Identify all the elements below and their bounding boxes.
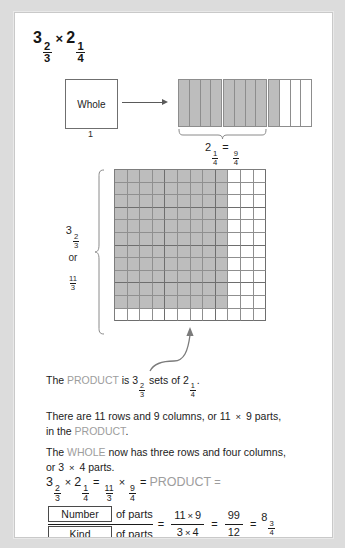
grid-cell — [115, 233, 128, 246]
grid-cell — [165, 246, 178, 259]
grid-cell — [203, 296, 216, 309]
grid-cell — [191, 195, 204, 208]
eq-equals-1: = — [90, 476, 102, 488]
grid-cell — [165, 220, 178, 233]
term-product-3: PRODUCT — [149, 475, 211, 489]
grid-cell — [115, 296, 128, 309]
grid-cell — [178, 271, 191, 284]
grid-cell — [140, 258, 153, 271]
strip-1 — [178, 79, 222, 127]
grid-cell — [165, 233, 178, 246]
grid-cell — [178, 208, 191, 221]
grid-cell — [228, 246, 241, 259]
whole-box: Whole — [65, 79, 118, 129]
grid-cell — [216, 208, 229, 221]
grid-cell — [254, 195, 267, 208]
grid-cell — [165, 283, 178, 296]
eq-equals-3: = — [211, 476, 223, 488]
grid-cell — [241, 170, 254, 183]
title-a-numerator: 2 — [43, 41, 51, 53]
strip-3 — [268, 79, 312, 127]
grid-cell — [165, 183, 178, 196]
nk-equals-3: = — [245, 518, 261, 530]
p1-frac1-den: 3 — [139, 390, 145, 399]
grid-cell — [203, 258, 216, 271]
grid-cell — [153, 208, 166, 221]
nk-final-num: 3 — [268, 520, 274, 528]
grid-cell — [153, 283, 166, 296]
strip-caption-improper-den: 4 — [233, 158, 239, 167]
grid-cell — [241, 258, 254, 271]
grid-cell — [140, 283, 153, 296]
whole-box-value: 1 — [65, 129, 116, 139]
grid-cell — [128, 258, 141, 271]
grid-cell — [241, 271, 254, 284]
grid-cell — [254, 233, 267, 246]
multiply-icon-p3: × — [67, 462, 77, 473]
grid-cell — [165, 309, 178, 322]
term-whole: WHOLE — [67, 446, 106, 458]
grid-cell — [165, 208, 178, 221]
grid-cell — [128, 309, 141, 322]
grid-cell — [191, 170, 204, 183]
multiply-icon-eq1: × — [62, 476, 74, 488]
grid-cell — [140, 271, 153, 284]
number-kind-fraction: Number of parts Kind of parts — [48, 505, 153, 538]
multiply-icon-nk-num: × — [186, 510, 196, 521]
grid-cell — [178, 233, 191, 246]
grid-cell — [228, 296, 241, 309]
curved-arrow-icon — [148, 321, 208, 373]
strip-caption-equals: = — [219, 141, 231, 153]
row-label-num: 2 — [73, 233, 79, 241]
grid-cell — [115, 208, 128, 221]
grid-cell — [128, 271, 141, 284]
strip-1-cell-1 — [179, 80, 190, 126]
grid-cell — [191, 183, 204, 196]
grid-cell — [153, 220, 166, 233]
grid-cell — [216, 296, 229, 309]
term-product-1: PRODUCT — [67, 374, 119, 386]
title-factor-a: 323 — [33, 29, 53, 46]
grid-cell — [178, 183, 191, 196]
grid-cell — [128, 208, 141, 221]
grid-cell — [203, 271, 216, 284]
eq-a-den: 3 — [54, 493, 61, 503]
strip-2-cell-1 — [224, 80, 235, 126]
eq-equals-2: = — [137, 476, 149, 488]
grid-cell — [216, 258, 229, 271]
grid-cell — [254, 246, 267, 259]
grid-cell — [128, 220, 141, 233]
grid-cell — [228, 183, 241, 196]
grid-cell — [254, 170, 267, 183]
term-product-2: PRODUCT — [75, 425, 126, 437]
title-a-denominator: 3 — [43, 52, 51, 65]
grid-cell — [128, 233, 141, 246]
strip-3-cell-1 — [269, 80, 280, 126]
grid-cell — [115, 183, 128, 196]
grid-cell — [216, 195, 229, 208]
grid-cell — [178, 309, 191, 322]
grid-cell — [165, 271, 178, 284]
grid-cell — [228, 258, 241, 271]
grid-cell — [216, 246, 229, 259]
grid-cell — [115, 195, 128, 208]
grid-cell — [216, 283, 229, 296]
strip-caption-improper-num: 9 — [233, 150, 239, 158]
grid-cell — [254, 283, 267, 296]
grid-cell — [178, 246, 191, 259]
grid-cell — [153, 296, 166, 309]
row-label-or: or — [56, 252, 90, 265]
strip-2-cell-4 — [256, 80, 266, 126]
grid-cell — [178, 170, 191, 183]
strip-caption: 214=94 — [178, 141, 267, 167]
grid-cell — [254, 309, 267, 322]
grid-cell — [191, 271, 204, 284]
p1-frac2-num: 1 — [190, 382, 196, 390]
grid-cell — [153, 183, 166, 196]
grid-cell — [140, 309, 153, 322]
grid-cell — [203, 233, 216, 246]
grid-cell — [241, 195, 254, 208]
grid-cell — [128, 246, 141, 259]
grid-cell — [216, 183, 229, 196]
title-factor-b: 214 — [66, 29, 86, 46]
